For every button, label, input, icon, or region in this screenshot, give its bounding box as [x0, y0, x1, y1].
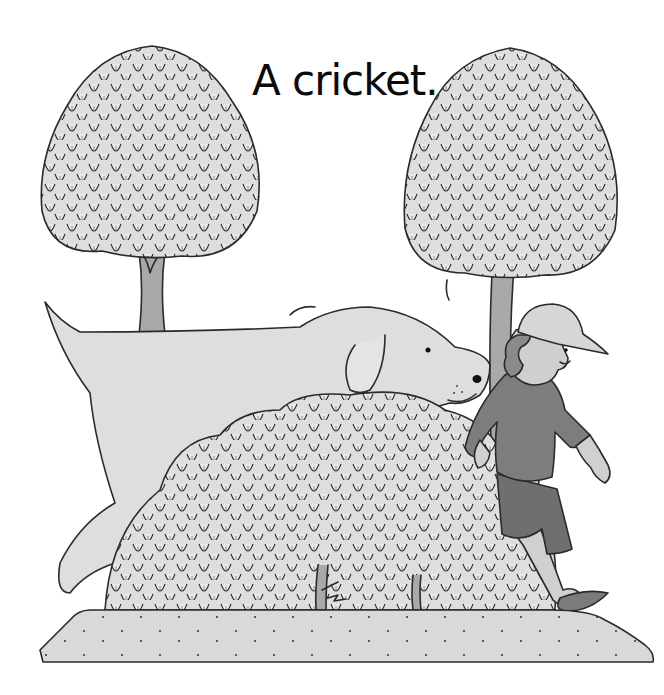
- page-caption: A cricket.: [252, 60, 438, 102]
- left-tree: [41, 46, 259, 335]
- illustration: A cricket.: [0, 0, 664, 695]
- ground: [40, 610, 653, 662]
